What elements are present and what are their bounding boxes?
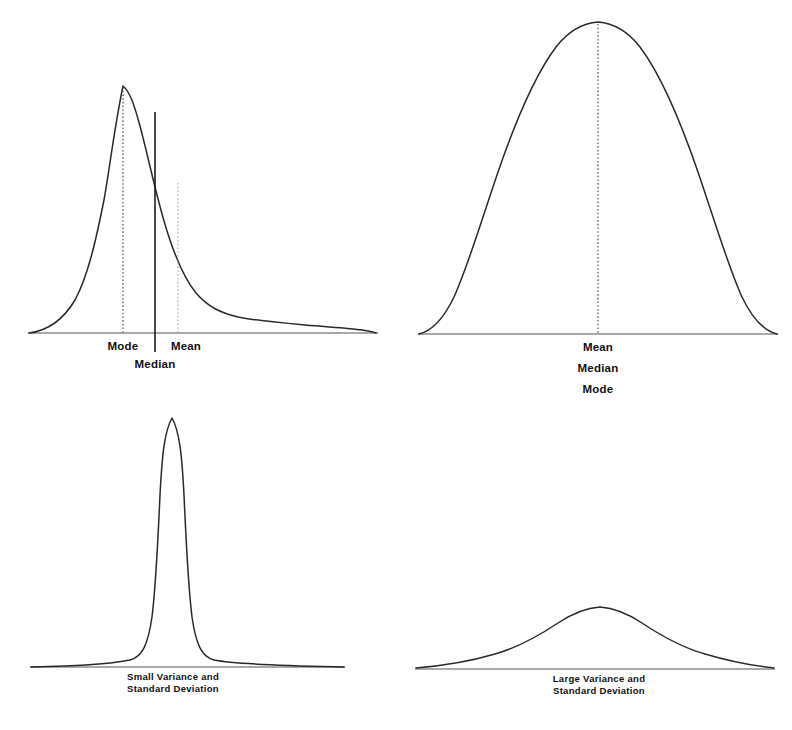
label-mean: Mean	[583, 340, 613, 355]
panel-small-variance: Small Variance and Standard Deviation	[0, 400, 396, 730]
small-variance-curve	[31, 418, 344, 667]
statistics-distribution-figure: Mode Mean Median Mean Median Mode Small …	[0, 0, 792, 730]
label-median: Median	[135, 357, 176, 372]
caption-line-2: Standard Deviation	[127, 683, 219, 695]
caption-large-variance: Large Variance and Standard Deviation	[553, 673, 646, 697]
large-variance-curve	[416, 607, 774, 668]
caption-line-2: Standard Deviation	[553, 685, 646, 697]
panel-symmetric-normal: Mean Median Mode	[396, 0, 792, 400]
caption-small-variance: Small Variance and Standard Deviation	[127, 671, 219, 695]
label-median: Median	[578, 361, 619, 376]
panel-positively-skewed: Mode Mean Median	[0, 0, 396, 400]
label-mode: Mode	[108, 339, 139, 354]
label-mean: Mean	[171, 339, 201, 354]
caption-line-1: Small Variance and	[127, 671, 219, 683]
skewed-curve	[29, 86, 376, 333]
label-mode: Mode	[583, 382, 614, 397]
panel-large-variance: Large Variance and Standard Deviation	[396, 400, 792, 730]
caption-line-1: Large Variance and	[553, 673, 646, 685]
